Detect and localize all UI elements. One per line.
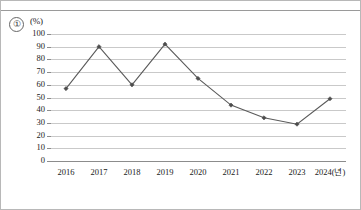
data-series-svg	[1, 1, 361, 210]
series-line	[66, 44, 330, 124]
data-point-marker	[262, 116, 266, 120]
series-markers	[64, 42, 332, 126]
chart-page: ① (%) 1009080706050403020100 20162017201…	[0, 0, 361, 210]
line-chart-plot-area: 1009080706050403020100 20162017201820192…	[1, 1, 361, 210]
